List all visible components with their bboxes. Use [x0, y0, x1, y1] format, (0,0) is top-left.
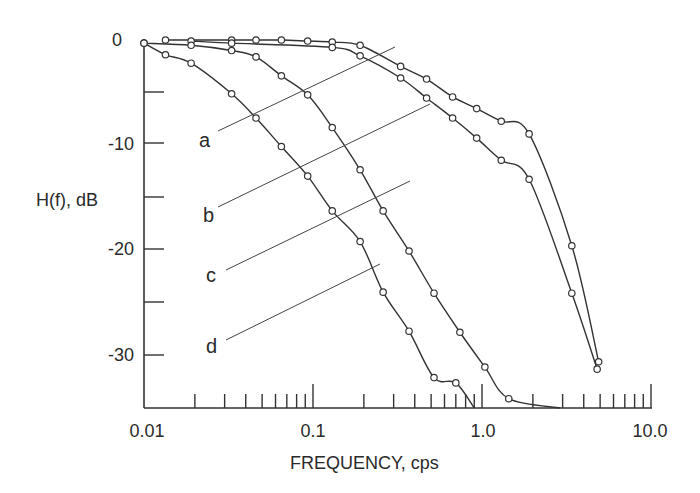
data-point-d [141, 40, 147, 46]
y-tick-label-minus30: -30 [108, 345, 134, 365]
curve-labels: a b c d [199, 129, 217, 357]
curve-label-b: b [203, 204, 214, 226]
curve-label-c: c [206, 264, 216, 286]
data-point-b [329, 44, 335, 50]
data-point-a [397, 63, 403, 69]
y-axis-title: H(f), dB [36, 190, 98, 210]
data-point-b [594, 366, 600, 372]
axes [144, 39, 652, 408]
data-point-a [423, 76, 429, 82]
data-point-d [406, 328, 412, 334]
leader-line-d [226, 264, 380, 340]
curve-b [191, 41, 597, 369]
curve-label-a: a [199, 129, 211, 151]
data-point-a [304, 38, 310, 44]
data-point-b [397, 75, 403, 81]
data-point-c [329, 124, 335, 130]
x-tick-label-0.01: 0.01 [129, 421, 164, 441]
data-point-c [278, 73, 284, 79]
data-point-c [228, 47, 234, 53]
y-ticks [144, 92, 164, 355]
data-point-d [380, 289, 386, 295]
data-point-b [449, 115, 455, 121]
data-point-b [473, 135, 479, 141]
leader-line-b [218, 104, 430, 207]
data-point-d [357, 238, 363, 244]
curve-label-d: d [206, 335, 217, 357]
data-point-d [304, 173, 310, 179]
data-point-d [278, 143, 284, 149]
frequency-response-chart: 0 -10 -20 -30 0.01 0.1 1.0 10.0 H(f), dB… [0, 0, 700, 493]
data-point-b [569, 290, 575, 296]
data-point-d [228, 91, 234, 97]
data-point-a [526, 131, 532, 137]
y-tick-label-0: 0 [112, 30, 122, 50]
y-tick-labels: 0 -10 -20 -30 [108, 30, 134, 365]
data-point-a [253, 37, 259, 43]
x-tick-label-10.0: 10.0 [632, 421, 667, 441]
data-point-a [498, 118, 504, 124]
data-point-b [228, 40, 234, 46]
data-point-c [304, 92, 310, 98]
data-point-c [482, 364, 488, 370]
data-point-c [253, 54, 259, 60]
leader-line-a [218, 47, 395, 131]
data-point-d [188, 60, 194, 66]
data-point-d [253, 115, 259, 121]
data-point-d [431, 374, 437, 380]
y-tick-label-minus10: -10 [108, 134, 134, 154]
data-point-d [162, 52, 168, 58]
x-tick-label-0.1: 0.1 [300, 421, 325, 441]
data-point-c [188, 42, 194, 48]
data-point-d [329, 208, 335, 214]
data-point-a [162, 37, 168, 43]
data-point-b [357, 53, 363, 59]
x-tick-label-1.0: 1.0 [470, 421, 495, 441]
data-point-b [498, 157, 504, 163]
x-axis-title: FREQUENCY, cps [290, 453, 439, 473]
data-point-b [526, 176, 532, 182]
data-point-c [406, 248, 412, 254]
data-point-c [357, 167, 363, 173]
data-point-a [473, 105, 479, 111]
data-point-c [380, 208, 386, 214]
y-tick-label-minus20: -20 [108, 239, 134, 259]
x-ticks [195, 384, 651, 408]
data-point-b [423, 95, 429, 101]
data-point-c [457, 329, 463, 335]
data-point-a [357, 42, 363, 48]
data-point-a [278, 37, 284, 43]
x-tick-labels: 0.01 0.1 1.0 10.0 [129, 421, 667, 441]
data-point-d [453, 380, 459, 386]
data-point-a [449, 94, 455, 100]
data-point-c [431, 290, 437, 296]
curve-leaders [218, 47, 430, 340]
data-point-a [595, 359, 601, 365]
data-point-a [569, 243, 575, 249]
data-point-c [506, 396, 512, 402]
leader-line-c [226, 181, 410, 270]
